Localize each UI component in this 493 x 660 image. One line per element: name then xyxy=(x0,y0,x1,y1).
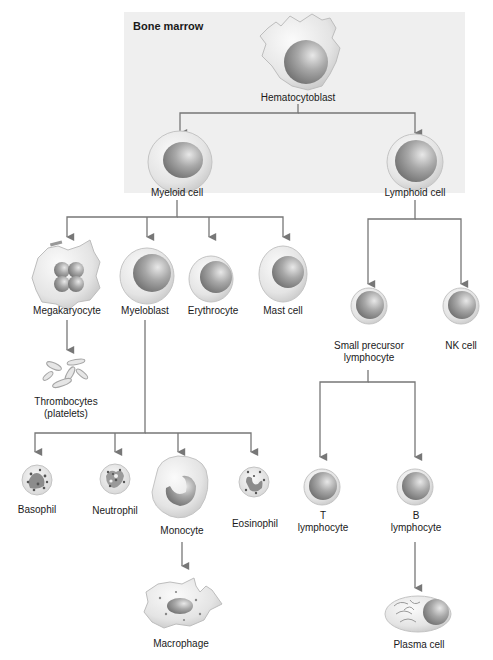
t-lymphocyte-label-line2: lymphocyte xyxy=(298,522,349,534)
eosinophil-label: Eosinophil xyxy=(232,518,278,530)
hematocytoblast-label: Hematocytoblast xyxy=(261,92,335,104)
thrombocytes-icon xyxy=(42,358,89,389)
small-precursor-label-line1: Small precursor xyxy=(334,340,404,352)
megakaryocyte-cell-icon xyxy=(32,240,100,310)
t-lymphocyte-label-line1: T xyxy=(298,510,349,522)
macrophage-label: Macrophage xyxy=(153,638,209,650)
b-lymphocyte-cell-icon xyxy=(397,469,433,505)
myeloid-cell-label: Myeloid cell xyxy=(151,187,203,199)
plasma-cell-label: Plasma cell xyxy=(393,639,444,651)
mast-cell-label: Mast cell xyxy=(263,305,302,317)
myeloblast-cell-icon xyxy=(120,248,174,304)
thrombocytes-label: Thrombocytes (platelets) xyxy=(34,396,97,420)
b-lymphocyte-label-line2: lymphocyte xyxy=(391,522,442,534)
erythrocyte-label: Erythrocyte xyxy=(188,305,239,317)
neutrophil-cell-icon xyxy=(100,464,130,494)
thrombocytes-label-line1: Thrombocytes xyxy=(34,396,97,408)
small-precursor-label-line2: lymphocyte xyxy=(334,352,404,364)
nk-cell-label: NK cell xyxy=(445,340,477,352)
nk-cell-icon xyxy=(443,288,479,324)
t-lymphocyte-cell-icon xyxy=(304,469,340,505)
b-lymphocyte-label-line1: B xyxy=(391,510,442,522)
small-precursor-lymphocyte-cell-icon xyxy=(351,288,387,324)
hematocytoblast-cell-icon xyxy=(260,14,340,90)
small-precursor-lymphocyte-label: Small precursor lymphocyte xyxy=(334,340,404,364)
myeloid-cell-icon xyxy=(148,131,212,193)
diagram-canvas: Bone marrow xyxy=(0,0,493,660)
plasma-cell-icon xyxy=(385,596,451,632)
basophil-cell-icon xyxy=(22,465,52,495)
t-lymphocyte-label: T lymphocyte xyxy=(298,510,349,534)
lymphoid-cell-icon xyxy=(387,134,443,190)
b-lymphocyte-label: B lymphocyte xyxy=(391,510,442,534)
macrophage-cell-icon xyxy=(144,578,222,628)
cell-illustrations xyxy=(0,0,493,660)
myeloblast-label: Myeloblast xyxy=(121,305,169,317)
erythrocyte-cell-icon xyxy=(189,256,233,302)
basophil-label: Basophil xyxy=(18,504,56,516)
eosinophil-cell-icon xyxy=(239,467,269,497)
monocyte-label: Monocyte xyxy=(160,525,203,537)
megakaryocyte-label: Megakaryocyte xyxy=(33,305,101,317)
mast-cell-icon xyxy=(259,246,307,302)
neutrophil-label: Neutrophil xyxy=(92,505,138,517)
monocyte-cell-icon xyxy=(152,456,208,518)
lymphoid-cell-label: Lymphoid cell xyxy=(385,187,446,199)
thrombocytes-label-line2: (platelets) xyxy=(34,408,97,420)
